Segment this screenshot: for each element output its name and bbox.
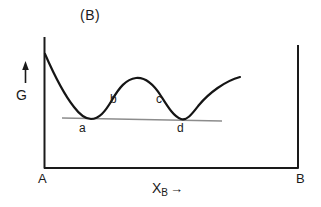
annotation-c: c — [156, 93, 162, 105]
annotation-d: d — [177, 122, 184, 134]
axis-endpoint-left: A — [38, 172, 47, 185]
x-axis-label-subscript: B — [161, 187, 168, 198]
axis-endpoint-right: B — [296, 172, 305, 185]
x-axis-arrow-icon: → — [168, 181, 183, 196]
annotation-a: a — [79, 122, 86, 134]
x-axis-label: XB→ — [152, 181, 183, 198]
y-axis-label: G — [16, 88, 27, 102]
annotation-b: b — [110, 93, 117, 105]
panel-title: (B) — [80, 8, 100, 22]
x-axis-label-symbol: X — [152, 180, 161, 196]
